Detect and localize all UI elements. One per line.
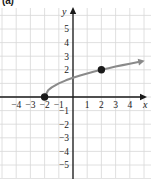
svg-text:3: 3 xyxy=(64,52,69,62)
svg-text:4: 4 xyxy=(64,38,69,48)
svg-text:2: 2 xyxy=(99,100,104,110)
x-tick-labels: −4−3−2−11234 xyxy=(11,100,132,110)
svg-text:−2: −2 xyxy=(40,100,50,110)
graph-figure: (a) −4−3−2−11234 5432−1−2−3−4−5 x y xyxy=(0,0,151,179)
svg-text:−3: −3 xyxy=(25,100,35,110)
svg-text:1: 1 xyxy=(85,100,90,110)
svg-text:−3: −3 xyxy=(59,133,69,143)
coordinate-plane: −4−3−2−11234 5432−1−2−3−4−5 x y xyxy=(0,0,151,179)
svg-text:4: 4 xyxy=(127,100,132,110)
y-axis-label: y xyxy=(61,6,67,17)
svg-text:−2: −2 xyxy=(59,120,69,130)
svg-text:5: 5 xyxy=(64,24,69,34)
svg-text:−1: −1 xyxy=(59,106,69,116)
x-axis-label: x xyxy=(142,99,148,110)
svg-text:3: 3 xyxy=(113,100,118,110)
svg-text:−5: −5 xyxy=(59,160,69,170)
svg-text:−4: −4 xyxy=(11,100,21,110)
axes xyxy=(0,7,147,179)
grid-lines xyxy=(0,8,151,179)
svg-text:2: 2 xyxy=(64,65,69,75)
svg-text:−4: −4 xyxy=(59,147,69,157)
